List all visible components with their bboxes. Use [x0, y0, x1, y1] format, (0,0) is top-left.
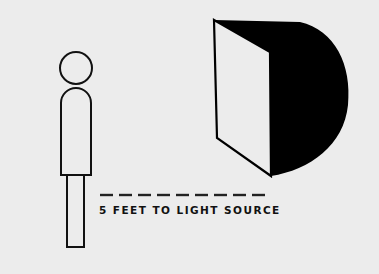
- distance-label: 5 FEET TO LIGHT SOURCE: [99, 204, 281, 216]
- person-figure: [60, 52, 92, 247]
- person-legs: [67, 175, 84, 247]
- person-torso: [61, 88, 91, 175]
- lighting-diagram: [0, 0, 379, 274]
- person-head: [60, 52, 92, 84]
- softbox-light-source: [214, 20, 349, 176]
